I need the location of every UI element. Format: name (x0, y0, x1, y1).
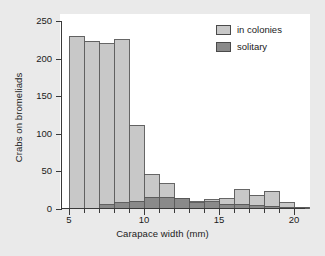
y-tick-label: 250 (26, 15, 52, 26)
legend-item-solitary: solitary (216, 41, 267, 52)
x-tick-label: 20 (284, 214, 304, 225)
x-tick-label: 5 (59, 214, 79, 225)
histogram-bar (99, 44, 114, 209)
histogram-bar (129, 125, 144, 208)
histogram-bar (144, 197, 159, 208)
legend-item-in-colonies: in colonies (216, 24, 282, 35)
y-axis-title: Crabs on bromeliads (13, 48, 24, 188)
legend-label-solitary: solitary (237, 41, 267, 52)
histogram-bar (174, 199, 189, 209)
y-tick-label: 150 (26, 90, 52, 101)
histogram-bar (69, 36, 84, 209)
y-tick-label: 50 (26, 165, 52, 176)
histogram-bar (114, 203, 129, 209)
histogram-bar (99, 205, 114, 209)
legend-swatch-solitary (216, 42, 231, 52)
histogram-bar (219, 204, 234, 209)
histogram-bar (84, 41, 99, 208)
x-tick-label: 10 (134, 214, 154, 225)
legend-label-in-colonies: in colonies (237, 24, 282, 35)
figure-container: Carapace width (mm) Crabs on bromeliads … (0, 0, 325, 256)
histogram-bar (234, 204, 249, 209)
histogram-bar (129, 201, 144, 209)
histogram-bar (114, 40, 129, 209)
legend-swatch-in-colonies (216, 25, 231, 35)
y-tick-label: 100 (26, 128, 52, 139)
histogram-bar (189, 203, 204, 209)
y-tick-label: 200 (26, 53, 52, 64)
histogram-bar (204, 202, 219, 209)
x-axis-title: Carapace width (mm) (0, 228, 325, 239)
histogram-bar (159, 197, 174, 208)
x-tick-label: 15 (209, 214, 229, 225)
y-tick-label: 0 (26, 203, 52, 214)
